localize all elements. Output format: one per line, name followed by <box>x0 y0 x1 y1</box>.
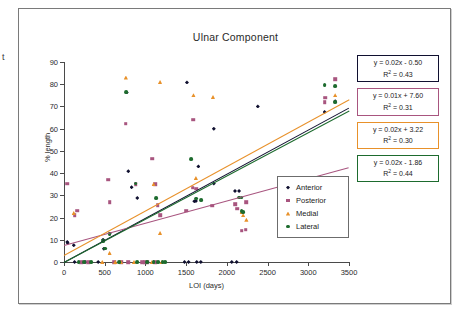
y-tick-label: 70 <box>50 102 58 111</box>
x-tick <box>268 262 269 266</box>
legend-label: Medial <box>296 209 318 218</box>
x-tick <box>308 262 309 266</box>
data-point-anterior <box>195 260 199 264</box>
data-point-anterior <box>185 80 189 84</box>
r-squared-text: R2 = 0.31 <box>361 101 435 113</box>
data-point-anterior <box>187 260 191 264</box>
data-point-lateral <box>117 260 121 264</box>
x-tick-label: 1500 <box>178 268 195 277</box>
legend-label: Anterior <box>296 183 322 192</box>
data-point-lateral <box>82 260 86 264</box>
data-point-anterior <box>199 260 203 264</box>
y-tick-label: 20 <box>50 213 58 222</box>
data-point-lateral <box>134 182 138 186</box>
r-squared-text: R2 = 0.44 <box>361 167 435 179</box>
x-tick-label: 3000 <box>300 268 317 277</box>
data-point-lateral <box>152 260 156 264</box>
data-point-anterior <box>230 260 234 264</box>
x-tick <box>349 262 350 266</box>
data-point-anterior <box>126 169 130 173</box>
y-tick <box>60 218 64 219</box>
y-tick <box>60 106 64 107</box>
data-point-lateral <box>103 247 107 251</box>
data-point-medial <box>244 218 248 222</box>
y-tick-label: 30 <box>50 191 58 200</box>
equation-text: y = 0.02x - 1.86 <box>361 158 435 168</box>
y-tick <box>60 151 64 152</box>
x-axis-line <box>64 262 349 263</box>
x-tick-label: 2500 <box>259 268 276 277</box>
x-tick-label: 3500 <box>341 268 358 277</box>
x-tick-label: 500 <box>98 268 111 277</box>
chart-legend: AnteriorPosteriorMedialLateral <box>277 176 349 238</box>
data-point-posterior <box>106 178 110 182</box>
data-point-anterior <box>212 127 216 131</box>
data-point-lateral <box>163 260 167 264</box>
data-point-lateral <box>241 210 245 214</box>
cropped-text-fragment: t <box>2 52 5 62</box>
legend-marker-icon <box>283 225 293 229</box>
data-point-posterior <box>158 214 162 218</box>
data-point-posterior <box>124 122 128 126</box>
data-point-posterior <box>150 157 154 161</box>
legend-item-posterior[interactable]: Posterior <box>283 194 343 207</box>
data-point-anterior <box>233 189 237 193</box>
data-point-medial <box>191 93 195 97</box>
data-point-medial <box>158 80 162 84</box>
data-point-lateral <box>189 157 193 161</box>
data-point-posterior <box>75 209 79 213</box>
y-tick <box>60 240 64 241</box>
legend-item-anterior[interactable]: Anterior <box>283 181 343 194</box>
data-point-lateral <box>124 91 128 95</box>
data-point-posterior <box>65 182 69 186</box>
legend-marker-icon <box>283 212 293 216</box>
data-point-lateral <box>194 197 198 201</box>
data-point-anterior <box>235 260 239 264</box>
data-point-posterior <box>323 100 327 104</box>
data-point-lateral <box>333 84 337 88</box>
data-point-lateral <box>145 260 149 264</box>
regression-equation-boxes: y = 0.02x - 0.50R2 = 0.43y = 0.01x + 7.6… <box>357 55 439 188</box>
legend-label: Posterior <box>296 196 326 205</box>
x-tick-label: 0 <box>62 268 66 277</box>
chart-title: Ulnar Component <box>19 31 452 43</box>
r-squared-text: R2 = 0.43 <box>361 68 435 80</box>
y-tick <box>60 195 64 196</box>
data-point-posterior <box>245 200 249 204</box>
y-tick-label: 90 <box>50 58 58 67</box>
y-tick-label: 60 <box>50 124 58 133</box>
data-point-lateral <box>135 260 139 264</box>
data-point-posterior <box>192 118 196 122</box>
y-tick-label: 10 <box>50 235 58 244</box>
data-point-lateral <box>89 260 93 264</box>
legend-marker-icon <box>283 186 293 190</box>
chart-image: t Ulnar Component % length LOI (days) 01… <box>0 0 467 321</box>
data-point-lateral <box>154 196 158 200</box>
data-point-medial <box>333 93 337 97</box>
y-tick-label: 80 <box>50 80 58 89</box>
data-point-medial <box>211 95 215 99</box>
x-tick <box>105 262 106 266</box>
equation-text: y = 0.02x - 0.50 <box>361 58 435 68</box>
legend-label: Lateral <box>296 222 319 231</box>
data-point-lateral <box>77 260 81 264</box>
equation-box-posterior: y = 0.01x + 7.60R2 = 0.31 <box>357 88 439 115</box>
y-tick <box>60 84 64 85</box>
legend-item-lateral[interactable]: Lateral <box>283 220 343 233</box>
data-point-anterior <box>256 104 260 108</box>
y-tick <box>60 129 64 130</box>
y-tick <box>60 62 64 63</box>
y-tick-label: 0 <box>54 258 58 267</box>
y-tick <box>60 173 64 174</box>
data-point-posterior <box>240 229 244 233</box>
data-point-medial <box>194 176 198 180</box>
data-point-posterior <box>233 202 237 206</box>
equation-box-medial: y = 0.02x + 3.22R2 = 0.30 <box>357 122 439 149</box>
equation-text: y = 0.01x + 7.60 <box>361 91 435 101</box>
legend-marker-icon <box>283 199 293 203</box>
x-axis-title: LOI (days) <box>64 281 349 290</box>
data-point-medial <box>124 76 128 80</box>
data-point-posterior <box>333 77 337 81</box>
r-squared-text: R2 = 0.30 <box>361 134 435 146</box>
legend-item-medial[interactable]: Medial <box>283 207 343 220</box>
